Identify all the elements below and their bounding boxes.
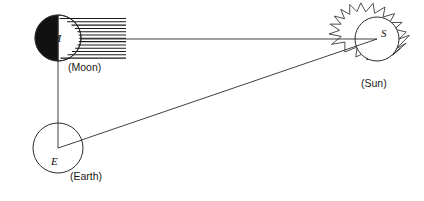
earth-caption-label: (Earth) bbox=[70, 170, 102, 182]
sun-caption-label: (Sun) bbox=[361, 77, 387, 89]
moon-caption-label: (Moon) bbox=[68, 61, 101, 73]
sun-body-group bbox=[329, 3, 409, 61]
earth-symbol-label: E bbox=[50, 155, 58, 167]
diagram-canvas: M (Moon) E (Earth) S (Sun) bbox=[0, 0, 424, 201]
sun-symbol-label: S bbox=[381, 27, 387, 39]
astronomy-diagram: M (Moon) E (Earth) S (Sun) bbox=[0, 0, 424, 201]
sight-line-earth-to-sun bbox=[58, 39, 377, 148]
moon-symbol-label: M bbox=[51, 32, 62, 44]
